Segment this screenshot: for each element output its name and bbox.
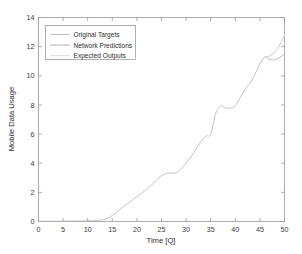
x-tick-label: 15 xyxy=(108,225,116,234)
x-tick-label: 50 xyxy=(281,225,289,234)
x-tick-label: 20 xyxy=(133,225,141,234)
line-chart: 05101520253035404550 02468101214 Time [Q… xyxy=(0,0,302,254)
y-tick-label: 14 xyxy=(27,13,35,22)
chart-figure: 05101520253035404550 02468101214 Time [Q… xyxy=(0,0,302,254)
y-tick-label: 2 xyxy=(31,188,35,197)
y-tick-label: 4 xyxy=(31,159,35,168)
x-tick-label: 35 xyxy=(207,225,215,234)
legend-label-1[interactable]: Network Predictions xyxy=(74,42,133,49)
x-tick-label: 5 xyxy=(61,225,65,234)
x-axis-title: Time [Q] xyxy=(147,236,176,245)
y-tick-label: 12 xyxy=(27,42,35,51)
y-axis-title: Mobile Data Usage xyxy=(7,87,16,152)
x-tick-label: 0 xyxy=(37,225,41,234)
y-tick-label: 0 xyxy=(31,217,35,226)
x-tick-label: 25 xyxy=(158,225,166,234)
x-tick-label: 10 xyxy=(84,225,92,234)
x-tick-label: 30 xyxy=(182,225,190,234)
y-tick-label: 8 xyxy=(31,101,35,110)
legend-label-2[interactable]: Expected Outputs xyxy=(74,52,127,60)
x-tick-label: 45 xyxy=(256,225,264,234)
y-tick-label: 10 xyxy=(27,71,35,80)
x-tick-label: 40 xyxy=(231,225,239,234)
legend-label-0[interactable]: Original Targets xyxy=(74,31,121,39)
y-tick-label: 6 xyxy=(31,130,35,139)
chart-legend[interactable]: Original TargetsNetwork PredictionsExpec… xyxy=(46,26,136,61)
